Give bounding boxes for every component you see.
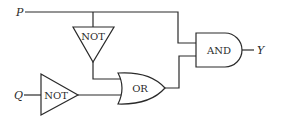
- not-gate-p-label: NOT: [81, 31, 105, 42]
- input-p-label: P: [15, 6, 24, 19]
- output-y-label: Y: [257, 44, 266, 57]
- and-gate-label: AND: [206, 45, 231, 56]
- logic-circuit-diagram: P NOT Q NOT OR AND Y: [0, 0, 286, 121]
- or-gate-label: OR: [132, 83, 148, 94]
- input-q-label: Q: [14, 89, 23, 102]
- wire-not-p-to-or: [93, 62, 121, 79]
- wire-or-to-and: [165, 56, 197, 88]
- not-gate-q-label: NOT: [44, 90, 68, 101]
